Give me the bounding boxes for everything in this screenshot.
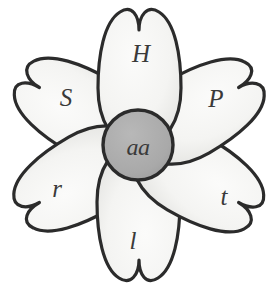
flower-illustration: H P t l r S aa [0, 0, 278, 304]
flower-diagram: H P t l r S aa [0, 0, 278, 304]
petal-label-lower-left: r [52, 175, 62, 202]
petal-label-bottom: l [130, 227, 137, 254]
petal-label-upper-left: S [60, 84, 73, 111]
petal-label-upper-right: P [207, 85, 223, 112]
center-label: aa [127, 134, 151, 160]
petal-label-lower-right: t [221, 183, 229, 210]
petal-label-top: H [131, 40, 152, 67]
